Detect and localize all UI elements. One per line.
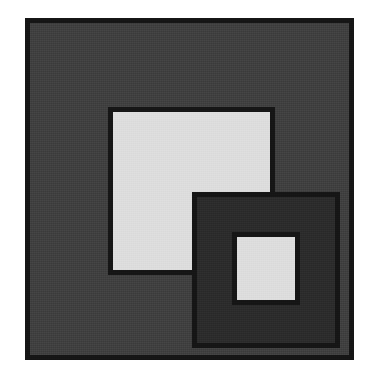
nested-squares-figure: Nested overlapping squares A large mediu… — [0, 0, 376, 375]
inner-light-square — [235, 235, 298, 303]
figure-canvas: Nested overlapping squares A large mediu… — [0, 0, 376, 375]
